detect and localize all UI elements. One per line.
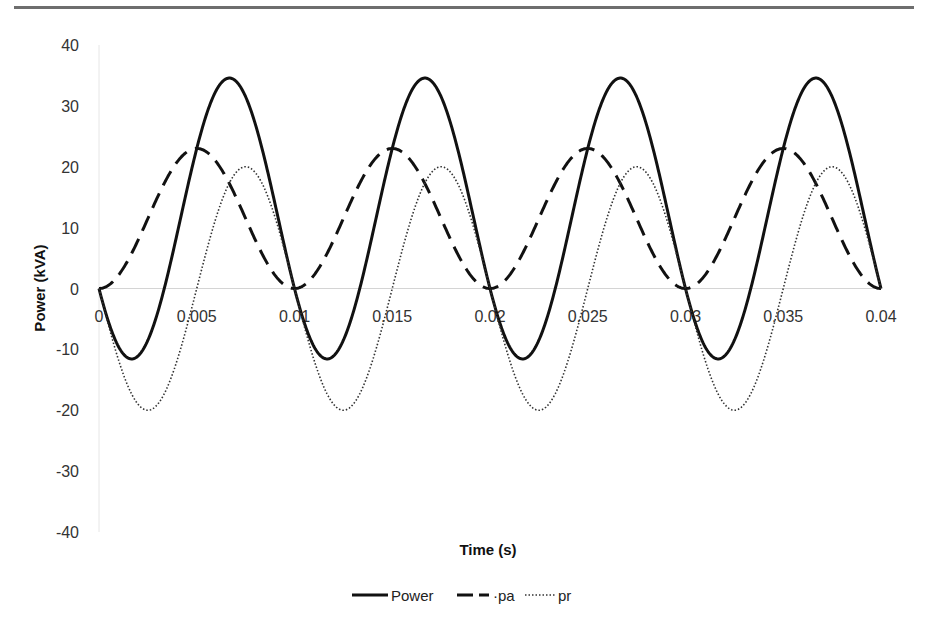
legend-label-pr: pr [558,587,571,604]
y-tick-label: 0 [70,281,79,298]
legend-label-power: Power [391,587,434,604]
x-tick-label: 0.005 [177,308,217,325]
y-tick-label: 30 [61,98,79,115]
y-tick-label: 20 [61,159,79,176]
line-chart: 403020100-10-20-30-40 00.0050.010.0150.0… [0,0,928,644]
series-lines [99,78,881,410]
y-axis-title: Power (kVA) [31,244,48,331]
x-tick-label: 0.04 [865,308,896,325]
series-pa-line [99,148,881,288]
x-tick-label: 0.035 [763,308,803,325]
y-tick-label: -10 [56,341,79,358]
x-tick-label: 0.015 [372,308,412,325]
x-tick-label: 0.025 [568,308,608,325]
legend: Power·papr [352,587,571,604]
y-tick-label: -20 [56,402,79,419]
x-tick-label: 0 [95,308,104,325]
y-tick-label: -40 [56,524,79,541]
y-tick-label: 10 [61,220,79,237]
x-axis-title: Time (s) [459,541,516,558]
legend-label-pa: ·pa [493,587,515,604]
y-tick-label: -30 [56,463,79,480]
y-axis: 403020100-10-20-30-40 [56,37,99,541]
y-tick-label: 40 [61,37,79,54]
